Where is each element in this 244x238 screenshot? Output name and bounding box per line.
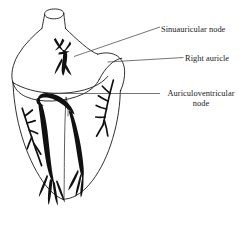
purkinje-right-twig-1 xyxy=(102,86,110,93)
purkinje-right-twig-5 xyxy=(97,124,104,136)
vessel-rim-front-icon xyxy=(45,13,64,19)
label-av-node-line1: Auriculoventricular xyxy=(168,89,235,98)
heart-diagram-svg xyxy=(0,0,244,238)
sa-node-lower-left-branch xyxy=(55,59,63,75)
av-groove-line xyxy=(13,76,108,93)
leader-line-right-auricle xyxy=(108,58,184,63)
label-auriculoventricular-node: Auriculoventricularnode xyxy=(161,89,241,109)
leader-lines-group xyxy=(51,27,184,94)
purkinje-right-twig-6 xyxy=(104,121,107,136)
vessel-wall-right xyxy=(64,14,66,29)
av-node-tail xyxy=(36,98,43,106)
purkinje-left-twig-4 xyxy=(27,137,32,149)
purkinje-right-twig-3 xyxy=(96,105,106,109)
purkinje-left-twig-1 xyxy=(25,110,33,116)
left-bundle-branch xyxy=(39,104,55,183)
purkinje-left-twig-2 xyxy=(27,121,35,123)
label-av-node-line2: node xyxy=(161,99,241,109)
conducting-system-group xyxy=(36,38,83,206)
vessel-rim-back-icon xyxy=(44,9,63,15)
vessel-wall-left xyxy=(42,15,45,29)
purkinje-right-twig-2 xyxy=(98,96,108,101)
label-sinuauricular-node: Sinuauricular node xyxy=(161,25,225,35)
label-right-auricle: Right auricle xyxy=(185,54,229,64)
heart-conduction-figure: Sinuauricular node Right auricle Auricul… xyxy=(0,0,244,238)
leader-line-sinuauricular xyxy=(74,27,160,57)
right-bundle-branch xyxy=(69,111,84,179)
interventricular-sulcus xyxy=(64,97,66,199)
